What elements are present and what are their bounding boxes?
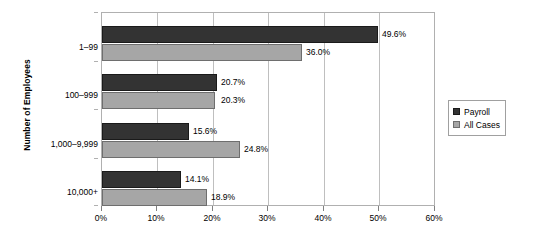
bar-group-100-999: 20.7% 20.3% bbox=[102, 61, 434, 110]
bar-value-label: 24.8% bbox=[244, 141, 268, 158]
x-axis-tick-group: 0% 10% 20% 30% 40% 50% 60% bbox=[101, 206, 435, 232]
bar-group-10000plus: 14.1% 18.9% bbox=[102, 158, 434, 206]
y-axis-tickmark bbox=[94, 109, 98, 110]
bar-allcases-1000-9999[interactable] bbox=[102, 141, 240, 158]
x-axis-tickmark bbox=[323, 206, 324, 211]
bar-payroll-1000-9999[interactable] bbox=[102, 123, 189, 140]
bar-allcases-100-999[interactable] bbox=[102, 92, 215, 109]
legend-item-payroll[interactable]: Payroll bbox=[453, 105, 500, 118]
x-axis-tick-label: 50% bbox=[369, 213, 386, 223]
x-axis-tickmark bbox=[434, 206, 435, 211]
bar-chart: Number of Employees 1–99 100–999 1,000–9… bbox=[0, 0, 533, 243]
bar-group-1000-9999: 15.6% 24.8% bbox=[102, 110, 434, 158]
y-axis-tickmark bbox=[94, 61, 98, 62]
legend-label: All Cases bbox=[464, 120, 500, 130]
x-axis-tick-label: 40% bbox=[314, 213, 331, 223]
x-axis-tickmark bbox=[156, 206, 157, 211]
bar-value-label: 18.9% bbox=[211, 189, 235, 206]
bar-value-label: 36.0% bbox=[306, 44, 330, 61]
x-axis-tick-label: 30% bbox=[258, 213, 275, 223]
legend-label: Payroll bbox=[464, 107, 490, 117]
x-axis-tickmark bbox=[267, 206, 268, 211]
x-axis-tickmark bbox=[212, 206, 213, 211]
x-axis-tick-label: 0% bbox=[95, 213, 107, 223]
x-axis-tickmark bbox=[378, 206, 379, 211]
y-axis-tickmark bbox=[94, 205, 98, 206]
x-axis-tick-label: 20% bbox=[203, 213, 220, 223]
legend-swatch-icon bbox=[453, 108, 460, 115]
y-axis-tickmark bbox=[94, 158, 98, 159]
bar-payroll-1-99[interactable] bbox=[102, 26, 378, 43]
chart-legend: Payroll All Cases bbox=[448, 100, 506, 136]
y-axis-tick-label: 10,000+ bbox=[6, 187, 98, 197]
bar-allcases-10000plus[interactable] bbox=[102, 189, 207, 206]
y-axis-tick-label: 1–99 bbox=[6, 42, 98, 52]
y-axis-tick-label: 1,000–9,999 bbox=[6, 139, 98, 149]
bar-payroll-10000plus[interactable] bbox=[102, 171, 181, 188]
x-axis-tick-label: 10% bbox=[147, 213, 164, 223]
y-axis-tickmark bbox=[94, 12, 98, 13]
x-axis-tickmark bbox=[101, 206, 102, 211]
bar-value-label: 49.6% bbox=[382, 26, 406, 43]
x-axis-tick-label: 60% bbox=[425, 213, 442, 223]
legend-item-all-cases[interactable]: All Cases bbox=[453, 118, 500, 131]
bar-value-label: 20.7% bbox=[221, 74, 245, 91]
y-axis-tick-group: 1–99 100–999 1,000–9,999 10,000+ bbox=[0, 12, 98, 206]
plot-area: 49.6% 36.0% 20.7% 20.3% 15.6% 24.8% 14.1… bbox=[101, 12, 435, 206]
bar-group-1-99: 49.6% 36.0% bbox=[102, 13, 434, 61]
bar-value-label: 20.3% bbox=[221, 92, 245, 109]
bar-allcases-1-99[interactable] bbox=[102, 44, 302, 61]
y-axis-tick-label: 100–999 bbox=[6, 90, 98, 100]
bar-payroll-100-999[interactable] bbox=[102, 74, 217, 91]
legend-swatch-icon bbox=[453, 121, 460, 128]
bar-value-label: 14.1% bbox=[185, 171, 209, 188]
bar-value-label: 15.6% bbox=[193, 123, 217, 140]
